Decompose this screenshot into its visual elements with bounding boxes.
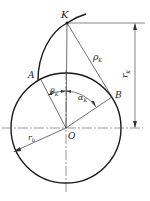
rk-arrow-top [133,23,137,30]
arc-arrow-mid-right [66,90,71,93]
line-OA [40,78,66,128]
label-r-b: rb [28,133,35,143]
line-KB [67,23,112,97]
rk-arrow-bottom [133,121,137,128]
label-A: A [27,70,35,80]
point-K [66,22,69,25]
involute-curve [38,14,86,80]
line-rb [15,128,66,151]
label-rho-k: ρK [92,52,102,63]
label-theta-k: θK [50,87,59,97]
label-O: O [68,131,76,141]
label-r-k: rK [120,70,131,78]
label-r-k-group: rK [120,70,131,78]
label-B: B [114,90,122,100]
involute-diagram: K A B O ρK θK αK rK rb [0,0,150,201]
line-OK [66,23,67,128]
label-K: K [60,9,69,20]
label-alpha-k: αK [78,93,87,103]
arc-arrow-mid-left [61,90,66,93]
line-OB [66,97,112,128]
